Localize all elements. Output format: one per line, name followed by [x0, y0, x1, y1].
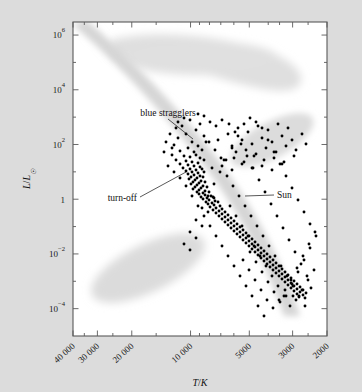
- star-point: [208, 199, 211, 202]
- star-point: [173, 171, 176, 174]
- star-point: [218, 215, 221, 218]
- star-point: [268, 245, 271, 248]
- star-point: [304, 297, 307, 300]
- star-point: [299, 286, 302, 289]
- star-point: [197, 113, 200, 116]
- star-point: [266, 258, 269, 261]
- star-point: [183, 243, 186, 246]
- star-point: [171, 154, 174, 157]
- star-point: [235, 151, 238, 154]
- star-point: [261, 137, 264, 140]
- star-point: [253, 245, 256, 248]
- star-point: [285, 145, 288, 148]
- star-point: [245, 232, 248, 235]
- star-point: [245, 149, 248, 152]
- star-point: [257, 244, 260, 247]
- star-point: [237, 127, 240, 130]
- star-point: [256, 225, 259, 228]
- star-point: [263, 250, 266, 253]
- star-point: [245, 285, 248, 288]
- star-point: [227, 133, 230, 136]
- star-point: [275, 267, 278, 270]
- star-point: [255, 121, 258, 124]
- star-point: [261, 127, 264, 130]
- star-point: [230, 222, 233, 225]
- star-point: [249, 251, 252, 254]
- star-point: [254, 279, 257, 282]
- star-point: [273, 291, 276, 294]
- star-point: [171, 147, 174, 150]
- star-point: [292, 295, 295, 298]
- star-point: [202, 176, 205, 179]
- star-point: [238, 195, 241, 198]
- star-point: [273, 151, 276, 154]
- star-point: [226, 175, 229, 178]
- star-point: [208, 141, 211, 144]
- star-point: [189, 168, 192, 171]
- star-point: [209, 121, 212, 124]
- star-point: [185, 185, 188, 188]
- star-point: [300, 263, 303, 266]
- star-point: [211, 167, 214, 170]
- star-point: [303, 211, 306, 214]
- star-point: [287, 127, 290, 130]
- star-point: [306, 275, 309, 278]
- annotation-label-blue-stragglers: blue stragglers: [140, 108, 196, 118]
- star-point: [291, 283, 294, 286]
- star-point: [187, 173, 190, 176]
- star-point: [218, 210, 221, 213]
- star-point: [207, 211, 210, 214]
- star-point: [285, 175, 288, 178]
- star-point: [273, 157, 276, 160]
- star-point: [209, 225, 212, 228]
- star-point: [191, 171, 194, 174]
- star-point: [243, 123, 246, 126]
- star-point: [315, 235, 318, 238]
- star-point: [227, 214, 230, 217]
- star-point: [267, 129, 270, 132]
- star-point: [203, 171, 206, 174]
- star-point: [275, 262, 278, 265]
- star-point: [281, 273, 284, 276]
- star-point: [263, 255, 266, 258]
- star-point: [198, 193, 201, 196]
- star-point: [197, 145, 200, 148]
- star-point: [281, 268, 284, 271]
- star-point: [233, 225, 236, 228]
- star-point: [271, 275, 274, 278]
- star-point: [181, 125, 184, 128]
- star-point: [271, 141, 274, 144]
- star-point: [308, 243, 311, 246]
- star-point: [232, 185, 235, 188]
- star-point: [208, 191, 211, 194]
- star-point: [227, 219, 230, 222]
- star-point: [197, 172, 200, 175]
- star-point: [236, 233, 239, 236]
- star-point: [221, 119, 224, 122]
- star-point: [295, 299, 298, 302]
- star-point: [188, 178, 191, 181]
- star-point: [276, 215, 279, 218]
- star-point: [217, 201, 220, 204]
- star-point: [262, 235, 265, 238]
- star-point: [293, 280, 296, 283]
- star-point: [257, 305, 260, 308]
- star-point: [219, 205, 222, 208]
- star-point: [251, 295, 254, 298]
- star-point: [199, 157, 202, 160]
- star-point: [221, 218, 224, 221]
- star-point: [191, 161, 194, 164]
- star-point: [263, 159, 266, 162]
- star-point: [258, 179, 261, 182]
- star-point: [195, 237, 198, 240]
- star-point: [313, 269, 316, 272]
- star-point: [254, 241, 257, 244]
- star-point: [215, 125, 218, 128]
- star-point: [260, 247, 263, 250]
- star-point: [217, 139, 220, 142]
- star-point: [242, 229, 245, 232]
- star-point: [271, 169, 274, 172]
- star-point: [247, 235, 250, 238]
- star-point: [248, 240, 251, 243]
- star-point: [201, 149, 204, 152]
